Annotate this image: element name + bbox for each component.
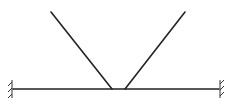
beam-diagram — [0, 0, 232, 110]
right-strut — [125, 12, 185, 89]
right-fixed-support-icon — [220, 80, 224, 98]
left-strut — [51, 12, 112, 89]
left-fixed-support-icon — [8, 80, 12, 98]
